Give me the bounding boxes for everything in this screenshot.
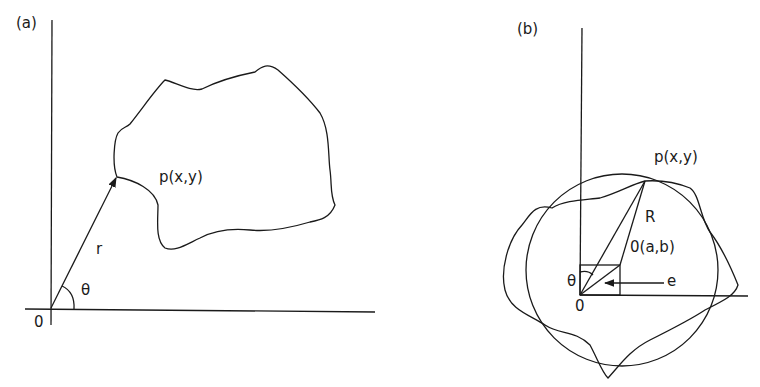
diagram-canvas bbox=[0, 0, 760, 387]
origin-label-a: 0 bbox=[34, 315, 44, 330]
y-axis-b bbox=[580, 28, 582, 295]
y-axis-a bbox=[51, 20, 52, 325]
x-axis-a bbox=[25, 309, 375, 312]
point-label-a: p(x,y) bbox=[159, 170, 203, 185]
angle-arc-a bbox=[62, 286, 74, 309]
center-label-b: 0(a,b) bbox=[630, 240, 675, 255]
irregular-profile-a bbox=[114, 66, 335, 249]
radius-label-a: r bbox=[96, 242, 102, 257]
point-label-b: p(x,y) bbox=[654, 150, 698, 165]
angle-label-b: θ bbox=[567, 274, 576, 289]
origin-label-b: 0 bbox=[575, 299, 585, 314]
radius-label-b: R bbox=[645, 210, 655, 225]
irregular-profile-b bbox=[504, 181, 738, 378]
panel-b bbox=[504, 28, 748, 378]
reference-circle bbox=[526, 174, 718, 366]
angle-label-a: θ bbox=[81, 283, 90, 298]
line-origin-to-center bbox=[580, 265, 620, 295]
eccentricity-label: e bbox=[667, 274, 676, 289]
panel-a-tag: (a) bbox=[16, 16, 37, 31]
panel-b-tag: (b) bbox=[517, 22, 538, 37]
